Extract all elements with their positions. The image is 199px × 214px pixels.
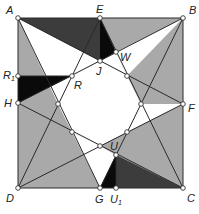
label-W: W [120, 51, 132, 63]
label-C: C [187, 192, 195, 204]
point-C [181, 186, 186, 191]
label-U1: U1 [110, 193, 122, 206]
point-E [98, 16, 103, 21]
label-B: B [189, 4, 196, 16]
octagon-vertex [56, 102, 61, 107]
label-R: R [74, 79, 82, 91]
octagon-vertex [98, 144, 103, 149]
point-F [181, 102, 186, 107]
label-R1: R1 [3, 69, 15, 82]
label-H: H [4, 97, 12, 109]
label-U: U [110, 140, 118, 152]
point-W [114, 50, 119, 55]
geometry-diagram: A B C D E F G H J W R R1 U U1 [0, 0, 199, 214]
point-R [70, 74, 75, 79]
point-H [16, 101, 21, 106]
octagon-vertex [125, 74, 130, 79]
point-G [98, 186, 103, 191]
point-U1 [114, 186, 119, 191]
label-G: G [95, 193, 104, 205]
octagon-vertex [139, 102, 144, 107]
label-F: F [188, 102, 196, 114]
label-A: A [5, 4, 13, 16]
point-A [16, 16, 21, 21]
octagon-vertex [125, 130, 130, 135]
point-U [114, 153, 119, 158]
point-J [98, 59, 103, 64]
label-J: J [95, 65, 102, 77]
point-R1 [16, 74, 21, 79]
label-E: E [96, 3, 104, 15]
point-D [16, 186, 21, 191]
label-D: D [6, 192, 14, 204]
point-B [181, 16, 186, 21]
octagon-vertex [70, 130, 75, 135]
